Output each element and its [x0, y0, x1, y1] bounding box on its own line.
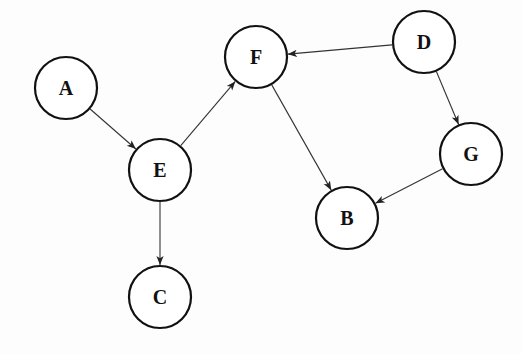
node-g: G — [440, 123, 502, 185]
edge-d-to-g — [436, 72, 458, 125]
node-label: G — [463, 143, 479, 165]
graph-canvas: AEFDGBC — [0, 0, 522, 354]
node-f: F — [225, 26, 287, 88]
node-c: C — [129, 266, 191, 328]
node-label: B — [340, 207, 353, 229]
nodes-group: AEFDGBC — [35, 11, 502, 328]
edge-f-to-b — [272, 85, 332, 190]
edge-a-to-e — [90, 109, 136, 149]
edge-e-to-f — [181, 81, 236, 145]
node-label: E — [153, 159, 166, 181]
graph-svg: AEFDGBC — [0, 0, 522, 354]
node-e: E — [129, 139, 191, 201]
node-label: A — [59, 77, 74, 99]
node-b: B — [316, 187, 378, 249]
node-d: D — [393, 11, 455, 73]
node-a: A — [35, 57, 97, 119]
edge-g-to-b — [375, 169, 442, 204]
node-label: C — [153, 286, 167, 308]
node-label: D — [417, 31, 431, 53]
node-label: F — [250, 46, 262, 68]
edge-d-to-f — [288, 45, 392, 54]
